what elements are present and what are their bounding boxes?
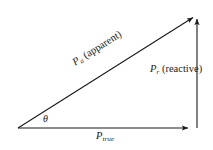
true-power-subscript: true: [102, 135, 114, 143]
power-triangle-diagram: Pa (apparent) Pr (reactive) Ptrue θ: [0, 0, 213, 150]
reactive-power-label: Pr (reactive): [150, 64, 202, 76]
reactive-power-qualifier: (reactive): [162, 63, 202, 74]
true-power-label: Ptrue: [96, 131, 114, 143]
phase-angle-label: θ: [43, 114, 48, 124]
